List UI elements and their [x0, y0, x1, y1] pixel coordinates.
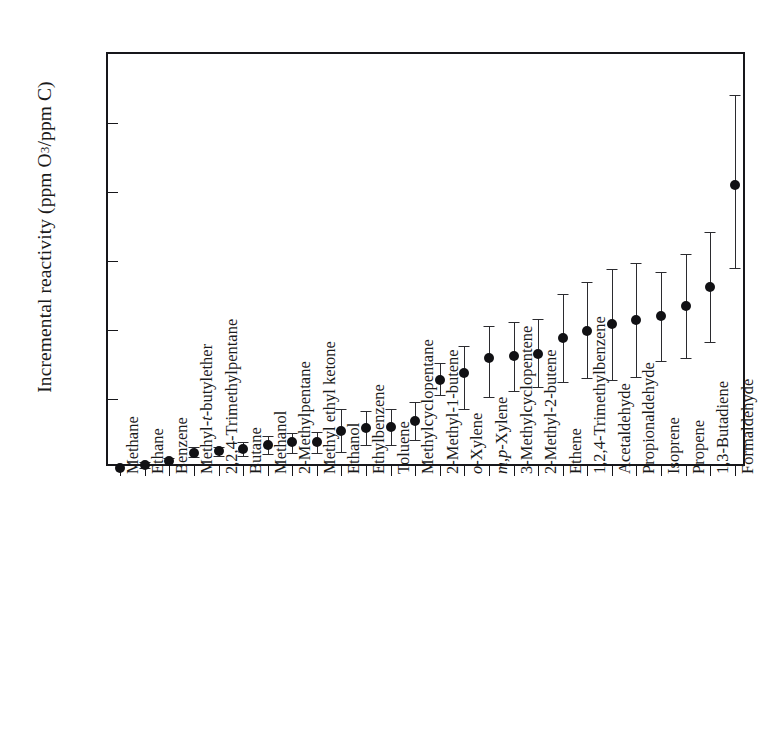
x-axis-tick	[735, 464, 736, 476]
x-axis-tick	[440, 464, 441, 476]
y-axis-tick	[107, 123, 118, 124]
error-bar-cap	[729, 268, 740, 269]
error-bar-cap	[557, 294, 568, 295]
error-bar-cap	[631, 263, 642, 264]
x-axis-tick	[268, 464, 269, 476]
x-axis-tick-label: 2-Methylpentane	[296, 361, 314, 474]
x-axis-tick-label: Propene	[690, 420, 708, 474]
data-point	[631, 315, 641, 325]
x-axis-tick	[636, 464, 637, 476]
error-bar-cap	[459, 346, 470, 347]
incremental-reactivity-chart: Incremental reactivity (ppm O3/ppm C) 0.…	[0, 0, 780, 739]
x-axis-tick	[391, 464, 392, 476]
x-axis-tick-label: o-Xylene	[468, 413, 486, 474]
x-axis-tick	[194, 464, 195, 476]
x-axis-tick-label: Methyl-t-butylether	[198, 344, 216, 474]
y-axis-tick	[107, 399, 118, 400]
y-axis-title-post: /ppm C)	[34, 81, 56, 146]
x-axis-tick-label: Ethylbenzene	[370, 384, 388, 474]
x-axis-tick-label: Acetaldehyde	[616, 383, 634, 474]
error-bar-cap	[508, 322, 519, 323]
error-bar-cap	[483, 326, 494, 327]
data-point	[484, 353, 494, 363]
x-axis-tick	[415, 464, 416, 476]
x-axis-tick	[366, 464, 367, 476]
x-axis-tick-label: 1,3-Butadiene	[714, 381, 732, 474]
x-axis-tick-label: Formaldehyde	[739, 379, 757, 474]
data-point	[558, 333, 568, 343]
y-axis-title-pre: Incremental reactivity (ppm O	[34, 153, 56, 393]
x-axis-tick-label: Ethanol	[345, 423, 363, 474]
x-axis-tick-label: Methanol	[272, 411, 290, 474]
x-axis-tick	[514, 464, 515, 476]
error-bar-cap	[606, 269, 617, 270]
x-axis-tick-label: Butane	[247, 427, 265, 474]
y-axis-tick	[107, 330, 118, 331]
x-axis-tick	[317, 464, 318, 476]
x-axis-tick-label: Ethane	[149, 428, 167, 474]
y-axis-tick	[107, 261, 118, 262]
x-axis-tick-label: 3-Methylcyclopentene	[518, 326, 536, 474]
x-axis-tick-label: 2,2,4-Trimethylpentane	[223, 319, 241, 474]
x-axis-tick-label: 1,2,4-Trimethylbenzene	[591, 316, 609, 474]
x-axis-tick-label: Isoprene	[665, 417, 683, 474]
data-point	[656, 311, 666, 321]
error-bar-cap	[582, 282, 593, 283]
data-point	[681, 301, 691, 311]
x-axis-tick	[464, 464, 465, 476]
error-bar-cap	[680, 358, 691, 359]
x-axis-tick-label: m,p-Xylene	[493, 397, 511, 474]
x-axis-tick	[489, 464, 490, 476]
error-bar-cap	[729, 95, 740, 96]
x-axis-tick	[587, 464, 588, 476]
x-axis-tick-label: Ethene	[567, 428, 585, 474]
error-bar-cap	[655, 272, 666, 273]
error-bar-cap	[705, 342, 716, 343]
error-bar-cap	[680, 254, 691, 255]
x-axis-tick	[661, 464, 662, 476]
x-axis-tick	[341, 464, 342, 476]
x-axis-tick	[686, 464, 687, 476]
data-point	[705, 282, 715, 292]
y-axis-title: Incremental reactivity (ppm O3/ppm C)	[22, 2, 68, 472]
y-axis-tick	[107, 192, 118, 193]
data-point	[730, 180, 740, 190]
x-axis-tick-label: Propionaldehyde	[640, 362, 658, 474]
x-axis-tick-label: 2-Methyl-2-butene	[542, 349, 560, 474]
x-axis-tick-label: Toluene	[395, 421, 413, 474]
x-axis-tick-label: Methane	[124, 416, 142, 474]
x-axis-tick	[219, 464, 220, 476]
x-axis-tick-label: Methylcyclopentane	[419, 339, 437, 474]
error-bar-cap	[533, 319, 544, 320]
x-axis-tick-label: Benzene	[173, 417, 191, 474]
x-axis-tick	[563, 464, 564, 476]
x-axis-tick-label: Methyl ethyl ketone	[321, 341, 339, 474]
x-axis-tick	[612, 464, 613, 476]
x-axis-tick	[243, 464, 244, 476]
error-bar-cap	[705, 232, 716, 233]
x-axis-tick	[538, 464, 539, 476]
x-axis-tick	[292, 464, 293, 476]
x-axis-tick	[710, 464, 711, 476]
x-axis-tick-label: 2-Methyl-1-butene	[444, 349, 462, 474]
y-axis-title-subscript: 3	[37, 146, 53, 153]
